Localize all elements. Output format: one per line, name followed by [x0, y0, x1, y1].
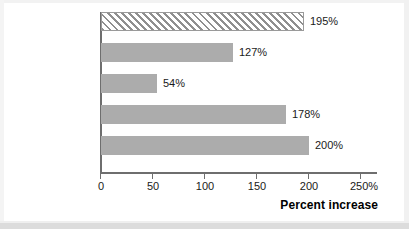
x-axis-title: Percent increase — [154, 198, 378, 212]
x-axis-tick — [308, 174, 309, 179]
x-axis-tick-label: 100 — [182, 180, 228, 192]
frame-border-bottom — [0, 223, 409, 229]
x-axis-tick — [152, 174, 153, 179]
x-axis-tick — [360, 174, 361, 179]
value-label: 178% — [292, 105, 320, 124]
value-label: 127% — [239, 43, 267, 62]
value-label: 200% — [315, 136, 343, 155]
chart-page: Hourly earnings 195% Eggs 127% Roast cof… — [0, 0, 409, 229]
plot-area: Hourly earnings 195% Eggs 127% Roast cof… — [4, 3, 404, 221]
x-axis-tick-label: 50 — [130, 180, 176, 192]
x-axis-tick-label: 200 — [286, 180, 332, 192]
bar[interactable] — [101, 43, 233, 62]
frame-border-right — [404, 0, 409, 224]
x-axis-tick — [100, 174, 101, 179]
x-axis-tick-label: 0 — [78, 180, 124, 192]
value-label: 195% — [310, 12, 338, 31]
x-axis-line — [100, 172, 377, 174]
bar[interactable] — [101, 105, 286, 124]
bar[interactable] — [101, 12, 304, 31]
x-axis-tick — [204, 174, 205, 179]
x-axis-tick-label: 250% — [341, 180, 387, 192]
x-axis-tick — [256, 174, 257, 179]
x-axis-tick-label: 150 — [234, 180, 280, 192]
bar[interactable] — [101, 74, 157, 93]
value-label: 54% — [163, 74, 185, 93]
bar[interactable] — [101, 136, 309, 155]
